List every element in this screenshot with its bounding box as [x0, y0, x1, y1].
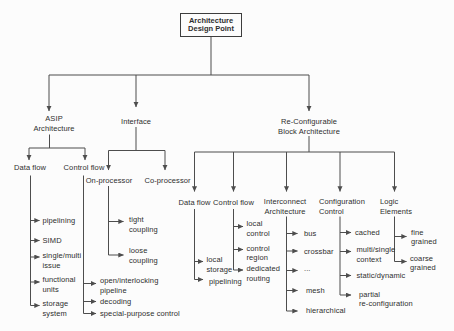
leaf-dedicated-routing: dedicated routing	[247, 264, 280, 283]
title-box: Architecture Design Point	[180, 13, 242, 37]
leaf-mesh: mesh	[306, 286, 325, 296]
leaf-control-region: control region	[247, 244, 270, 263]
node-reconfigurable-block-architecture: Re-Configurable Block Architecture	[278, 117, 340, 136]
node-interconnect-architecture: Interconnect Architecture	[264, 197, 306, 216]
leaf-decoding: decoding	[100, 297, 131, 307]
node-asip-control-flow: Control flow	[64, 163, 105, 173]
leaf-pipelining: pipelining	[43, 216, 76, 226]
node-asip-data-flow: Data flow	[14, 163, 46, 173]
leaf-static-dynamic: static/dynamic	[357, 271, 406, 281]
architecture-design-point-diagram: Architecture Design Point ASIP Architect…	[0, 0, 454, 331]
leaf-hierarchical: hierarchical	[306, 306, 346, 316]
leaf-tight-coupling: tight coupling	[129, 215, 158, 234]
leaf-special-purpose-control: special-purpose control	[100, 309, 180, 319]
node-asip-architecture: ASIP Architecture	[33, 114, 74, 133]
leaf-open-interlocking-pipeline: open/interlocking pipeline	[100, 276, 158, 295]
leaf-fine-grained: fine grained	[411, 228, 437, 247]
leaf-bus: bus	[304, 229, 316, 239]
node-interface: Interface	[121, 117, 151, 127]
node-configuration-control: Configuration Control	[319, 197, 365, 216]
leaf-ellipsis: ...	[304, 264, 311, 274]
node-co-processor: Co-processor	[144, 176, 190, 186]
leaf-multi-single-context: multi/single context	[357, 245, 396, 264]
leaf-local-control: local control	[247, 219, 270, 238]
leaf-coarse-grained: coarse grained	[410, 254, 436, 273]
node-on-processor: On-processor	[86, 176, 133, 186]
leaf-simd: SIMD	[43, 236, 62, 246]
leaf-functional-units: functional units	[43, 275, 76, 294]
node-rc-data-flow: Data flow	[178, 198, 210, 208]
node-rc-control-flow: Control flow	[213, 198, 254, 208]
leaf-cached: cached	[355, 228, 380, 238]
leaf-single-multi-issue: single/multi issue	[43, 251, 82, 270]
leaf-loose-coupling: loose coupling	[129, 246, 158, 265]
leaf-local-storage: local storage	[207, 255, 233, 274]
leaf-rc-pipelining: pipelining	[209, 277, 242, 287]
leaf-crossbar: crossbar	[304, 247, 334, 257]
leaf-storage-system: storage system	[43, 299, 69, 318]
leaf-partial-reconfiguration: partial re-configuration	[359, 290, 413, 309]
root-connectors	[49, 37, 309, 111]
interface-connectors	[109, 127, 166, 255]
node-logic-elements: Logic Elements	[380, 197, 412, 216]
